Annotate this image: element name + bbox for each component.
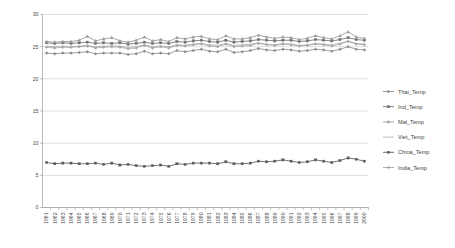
data-point-marker [323,160,325,162]
data-point-marker [298,161,300,163]
data-point-marker [273,49,276,52]
x-tick-label: 1981 [206,212,212,223]
data-point-marker [200,48,203,51]
data-point-marker [70,52,73,55]
data-point-marker [135,52,138,55]
data-point-marker [111,162,113,164]
data-point-marker [208,40,210,42]
x-tick-label: 1973 [141,212,147,223]
x-tick-label: 1964 [68,212,74,223]
data-point-marker [282,39,284,41]
data-point-marker [282,159,284,161]
data-point-marker [184,50,187,53]
legend-item-label: India_Temp [398,165,427,171]
data-point-marker [102,163,104,165]
legend-item-label: Viet_Temp [398,134,424,140]
data-point-marker [323,39,325,41]
data-point-marker [184,41,186,43]
x-tick-label: 1976 [166,212,172,223]
y-tick-label: 5 [36,172,39,178]
data-point-marker [167,52,170,55]
y-tick-label: 0 [36,204,39,210]
data-point-marker [225,161,227,163]
y-tick-label: 10 [33,140,39,146]
data-point-marker [61,52,64,55]
x-tick-label: 1990 [280,212,286,223]
data-point-marker [339,159,341,161]
legend-item-ind-temp[interactable]: Ind_Temp [383,104,423,110]
x-tick-label: 1972 [133,212,139,223]
legend-item-thai-temp[interactable]: Thai_Temp [383,89,426,95]
data-point-marker [127,53,130,56]
data-point-marker [249,40,251,42]
data-point-marker [387,151,389,153]
y-tick-label: 20 [33,76,39,82]
data-point-marker [274,160,276,162]
data-point-marker [306,161,308,163]
data-point-marker [86,50,89,53]
data-point-marker [347,45,350,48]
data-point-marker [363,160,365,162]
x-tick-label: 1987 [255,212,261,223]
x-tick-label: 1984 [231,212,237,223]
x-tick-label: 1977 [174,212,180,223]
series-mal-temp [45,30,366,43]
x-tick-label: 1994 [312,212,318,223]
data-point-marker [159,45,162,48]
data-point-marker [265,48,268,51]
legend-item-label: Thai_Temp [398,89,426,95]
data-point-marker [265,161,267,163]
data-point-marker [225,39,227,41]
data-point-marker [290,39,292,41]
data-point-marker [257,42,260,45]
data-point-marker [94,42,96,44]
x-tick-label: 1961 [43,212,49,223]
data-point-marker [118,52,121,55]
legend-item-viet-temp[interactable]: Viet_Temp [383,134,424,140]
data-point-marker [200,39,202,41]
data-point-marker [151,52,154,55]
x-tick-label: 1965 [76,212,82,223]
data-point-marker [233,51,236,54]
chart-canvas: 051015202530 196119621963196419651966196… [0,0,455,248]
data-point-marker [387,166,390,169]
data-point-marker [192,162,194,164]
x-tick-label: 1992 [296,212,302,223]
data-point-marker [387,106,389,108]
data-point-marker [200,162,202,164]
data-point-marker [217,41,219,43]
legend-item-china-temp[interactable]: China_Temp [383,149,429,155]
data-point-marker [249,49,252,52]
x-tick-label: 1983 [223,212,229,223]
data-point-marker [86,45,89,48]
data-point-marker [355,158,357,160]
y-axis-tick-labels: 051015202530 [33,11,43,210]
data-point-marker [160,42,162,44]
x-tick-label: 1966 [84,212,90,223]
data-point-marker [290,48,293,51]
data-point-marker [45,52,48,55]
data-point-marker [355,38,357,40]
data-point-marker [314,34,317,37]
data-point-marker [78,42,80,44]
data-point-marker [330,50,333,53]
data-point-marker [184,163,186,165]
data-point-marker [257,47,260,50]
data-point-marker [176,40,178,42]
legend-item-mal-temp[interactable]: Mal_Temp [383,119,424,125]
data-point-marker [322,48,325,51]
data-point-marker [159,52,162,55]
data-point-marker [290,160,292,162]
x-tick-label: 1962 [52,212,58,223]
data-point-marker [314,48,317,51]
data-point-marker [175,49,178,52]
data-series-group [45,30,366,167]
x-tick-label: 1991 [288,212,294,223]
x-tick-label: 1993 [304,212,310,223]
data-point-marker [78,163,80,165]
legend-item-india-temp[interactable]: India_Temp [383,165,427,171]
data-point-marker [306,40,308,42]
x-axis-tick-labels: 1961196219631964196519661967196819691970… [43,212,367,223]
x-tick-label: 1978 [182,212,188,223]
x-tick-label: 1979 [190,212,196,223]
